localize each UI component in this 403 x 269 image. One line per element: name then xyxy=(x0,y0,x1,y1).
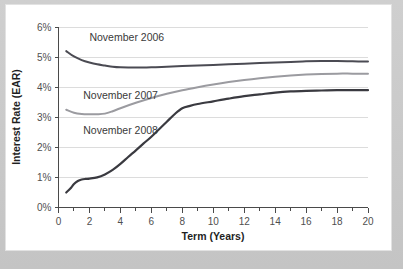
y-tick-label-2: 2% xyxy=(37,142,52,153)
series-line-november-2006 xyxy=(66,51,368,68)
x-tick-label-2: 2 xyxy=(87,216,93,227)
series-labels-group: November 2006November 2007November 2008 xyxy=(83,31,164,136)
y-tick-label-1: 1% xyxy=(37,172,52,183)
series-label-november-2007: November 2007 xyxy=(83,89,158,101)
x-tickmarks-group xyxy=(59,208,369,213)
chart-card: 0%1%2%3%4%5%6% 02468101214161820 Novembe… xyxy=(6,5,391,250)
y-axis-title: Interest Rate (EAR) xyxy=(10,69,22,165)
series-label-november-2008: November 2008 xyxy=(83,124,158,136)
y-tick-labels-group: 0%1%2%3%4%5%6% xyxy=(37,22,52,214)
yield-curve-chart: 0%1%2%3%4%5%6% 02468101214161820 Novembe… xyxy=(6,5,391,250)
figure-frame: 0%1%2%3%4%5%6% 02468101214161820 Novembe… xyxy=(0,0,403,269)
x-tick-label-6: 6 xyxy=(149,216,155,227)
x-tick-label-16: 16 xyxy=(301,216,313,227)
y-tick-label-5: 5% xyxy=(37,52,52,63)
x-tick-label-8: 8 xyxy=(180,216,186,227)
x-tick-label-12: 12 xyxy=(239,216,251,227)
x-axis-title: Term (Years) xyxy=(182,230,245,242)
x-tick-label-14: 14 xyxy=(270,216,282,227)
x-tick-label-10: 10 xyxy=(208,216,220,227)
y-tick-label-4: 4% xyxy=(37,82,52,93)
x-tick-labels-group: 02468101214161820 xyxy=(56,216,374,227)
x-tick-label-0: 0 xyxy=(56,216,62,227)
x-tick-label-4: 4 xyxy=(118,216,124,227)
y-tick-label-0: 0% xyxy=(37,202,52,213)
y-tickmarks-group xyxy=(55,27,59,208)
y-tick-label-3: 3% xyxy=(37,112,52,123)
x-tick-label-18: 18 xyxy=(331,216,343,227)
series-paths-group xyxy=(66,51,368,192)
x-tick-label-20: 20 xyxy=(362,216,374,227)
series-label-november-2006: November 2006 xyxy=(89,31,164,43)
y-tick-label-6: 6% xyxy=(37,22,52,33)
